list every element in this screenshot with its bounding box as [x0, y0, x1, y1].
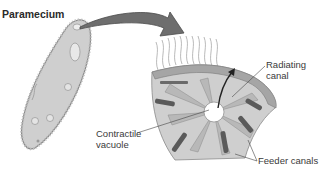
magnify-arrow [80, 12, 184, 36]
label-feeder-canals: Feeder canals [258, 155, 318, 166]
contractile-vacuole-detail [152, 36, 277, 160]
diagram-illustration [0, 0, 326, 169]
label-contractile-vacuole: Contractile vacuole [96, 128, 141, 150]
label-radiating-canal-line2: canal [266, 70, 306, 81]
label-contractile-vacuole-line1: Contractile [96, 128, 141, 139]
label-radiating-canal: Radiating canal [266, 59, 306, 81]
label-radiating-canal-line1: Radiating [266, 59, 306, 70]
paramecium-illustration [22, 20, 91, 149]
label-contractile-vacuole-line2: vacuole [96, 139, 141, 150]
